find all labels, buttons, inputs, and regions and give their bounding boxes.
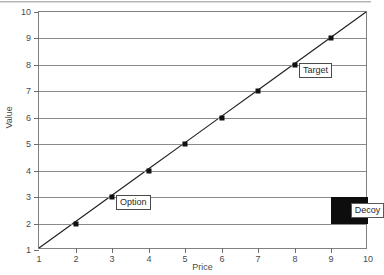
- y-axis-tick: [34, 171, 39, 172]
- plot-area: 12345678910 12345678910 Decoy Option Tar…: [38, 11, 367, 249]
- y-axis-tick: [34, 118, 39, 119]
- y-axis-tick: [34, 250, 39, 251]
- data-point-marker: [292, 62, 297, 67]
- y-axis-tick: [34, 144, 39, 145]
- y-axis-tick: [34, 38, 39, 39]
- gridline: [39, 224, 366, 225]
- gridline: [39, 38, 366, 39]
- gridline: [39, 91, 366, 92]
- x-axis-title: Price: [38, 262, 367, 272]
- y-axis-title: Value: [4, 116, 14, 129]
- data-point-marker: [146, 168, 151, 173]
- gridline: [39, 197, 366, 198]
- y-axis-tick-label: 3: [26, 193, 31, 202]
- data-point-marker: [219, 115, 224, 120]
- x-axis-tick: [185, 248, 186, 253]
- data-point-marker: [73, 221, 78, 226]
- y-axis-tick-label: 1: [26, 246, 31, 255]
- x-axis-tick: [112, 248, 113, 253]
- y-axis-tick-label: 5: [26, 140, 31, 149]
- x-axis-tick: [149, 248, 150, 253]
- x-axis-tick: [76, 248, 77, 253]
- gridline: [39, 171, 366, 172]
- series-line: [39, 12, 366, 248]
- data-point-marker: [329, 36, 334, 41]
- gridline: [39, 118, 366, 119]
- x-axis-tick: [331, 248, 332, 253]
- y-axis-tick-label: 4: [26, 167, 31, 176]
- data-point-marker: [110, 195, 115, 200]
- decoy-annotation-label: Decoy: [351, 203, 384, 218]
- y-axis-tick-label: 6: [26, 114, 31, 123]
- target-annotation-label: Target: [299, 63, 332, 78]
- y-axis-tick: [34, 197, 39, 198]
- gridline: [39, 144, 366, 145]
- x-axis-tick: [295, 248, 296, 253]
- y-axis-tick-label: 7: [26, 87, 31, 96]
- option-annotation-label: Option: [116, 195, 151, 210]
- y-axis-tick-label: 9: [26, 34, 31, 43]
- y-axis-tick: [34, 224, 39, 225]
- data-point-marker: [183, 142, 188, 147]
- y-axis-tick: [34, 12, 39, 13]
- y-axis-tick-label: 10: [21, 8, 31, 17]
- x-axis-tick: [222, 248, 223, 253]
- data-point-marker: [256, 89, 261, 94]
- scan-artifact-band: [0, 0, 371, 4]
- value-line-series: [39, 12, 366, 248]
- y-axis-tick: [34, 91, 39, 92]
- x-axis-tick: [258, 248, 259, 253]
- y-axis-tick-label: 2: [26, 220, 31, 229]
- y-axis-tick-label: 8: [26, 61, 31, 70]
- y-axis-tick: [34, 65, 39, 66]
